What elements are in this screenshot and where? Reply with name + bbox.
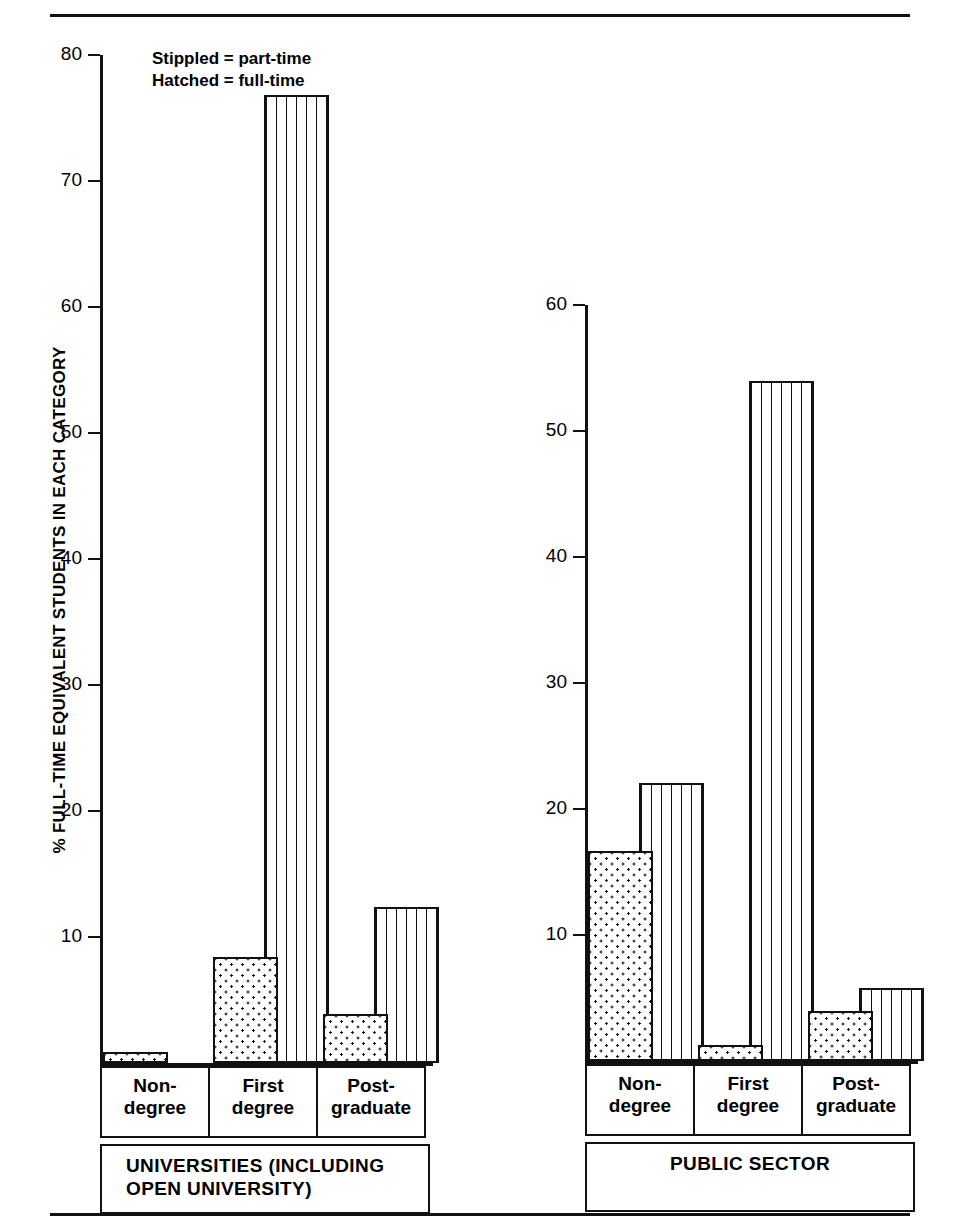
bar-part-time [588,851,653,1061]
bar-part-time [808,1011,873,1061]
y-axis-tick: 60 [573,304,585,306]
y-axis-tick: 70 [88,180,100,182]
group-label-line2: OPEN UNIVERSITY) [126,1177,428,1200]
y-axis-tick: 30 [88,684,100,686]
y-axis-tick-label: 20 [546,797,567,819]
category-label-line1: Non- [102,1075,208,1097]
y-axis-tick: 30 [573,682,585,684]
category-label-cell: Post-graduate [316,1066,426,1138]
y-axis-tick: 10 [573,934,585,936]
plot-area-universities: 1020304050607080Non-degreeFirstdegreePos… [100,55,430,1063]
y-axis-tick-label: 60 [61,295,82,317]
category-label-cell: Non-degree [585,1064,695,1136]
group-label-box: PUBLIC SECTOR [585,1142,915,1212]
y-axis-tick: 10 [88,936,100,938]
category-label-line1: Non- [587,1073,693,1095]
y-axis-tick-label: 10 [546,923,567,945]
bar-group [103,55,433,1063]
category-label-line2: degree [695,1095,801,1117]
category-label-line2: degree [587,1095,693,1117]
y-axis-tick-label: 30 [546,671,567,693]
category-label-cell: Non-degree [100,1066,210,1138]
y-axis-tick-label: 80 [61,43,82,65]
chart-panel-public-sector: 102030405060Non-degreeFirstdegreePost-gr… [585,305,915,1061]
category-label-line1: Post- [803,1073,909,1095]
category-label-cell: Firstdegree [693,1064,803,1136]
plot-area-public-sector: 102030405060Non-degreeFirstdegreePost-gr… [585,305,915,1061]
group-label-line1: PUBLIC SECTOR [587,1152,913,1175]
y-axis-tick-label: 60 [546,293,567,315]
y-axis-tick-label: 50 [546,419,567,441]
category-label-line2: degree [210,1097,316,1119]
category-label-line1: First [210,1075,316,1097]
category-label-row: Non-degreeFirstdegreePost-graduate [585,1064,911,1136]
bar-part-time [103,1052,168,1063]
category-label-line2: graduate [318,1097,424,1119]
category-label-cell: Post-graduate [801,1064,911,1136]
y-axis-tick: 60 [88,306,100,308]
y-axis-tick-label: 10 [61,925,82,947]
bar-part-time [323,1014,388,1063]
bar-group [588,305,918,1061]
category-label-line1: Post- [318,1075,424,1097]
bar-full-time [749,381,814,1061]
y-axis-tick-label: 70 [61,169,82,191]
bar-part-time [213,957,278,1063]
y-axis-tick: 40 [88,558,100,560]
y-axis-tick-label: 40 [61,547,82,569]
y-axis-tick-label: 30 [61,673,82,695]
bar-part-time [698,1045,763,1061]
y-axis-tick-label: 40 [546,545,567,567]
top-divider-rule [50,14,910,17]
group-label-line1: UNIVERSITIES (INCLUDING [126,1154,428,1177]
chart-panel-universities: 1020304050607080Non-degreeFirstdegreePos… [100,55,430,1063]
group-label-box: UNIVERSITIES (INCLUDINGOPEN UNIVERSITY) [100,1144,430,1214]
category-label-line2: degree [102,1097,208,1119]
y-axis-tick: 50 [573,430,585,432]
y-axis-tick: 20 [573,808,585,810]
bar-full-time [264,95,329,1063]
category-label-line2: graduate [803,1095,909,1117]
y-axis-tick: 50 [88,432,100,434]
y-axis-tick-label: 20 [61,799,82,821]
y-axis-tick: 40 [573,556,585,558]
category-label-line1: First [695,1073,801,1095]
category-label-row: Non-degreeFirstdegreePost-graduate [100,1066,426,1138]
y-axis-tick: 20 [88,810,100,812]
category-label-cell: Firstdegree [208,1066,318,1138]
y-axis-tick: 80 [88,54,100,56]
y-axis-tick-label: 50 [61,421,82,443]
